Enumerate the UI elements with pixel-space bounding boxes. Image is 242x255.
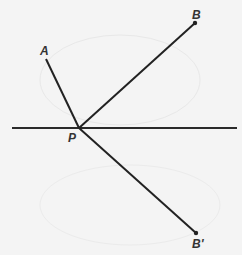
- segment-p-b-prime: [79, 128, 196, 233]
- faint-construction-arc-lower: [40, 165, 220, 245]
- label-a: A: [40, 44, 49, 58]
- label-b-prime: B': [192, 237, 204, 251]
- segment-p-b: [79, 23, 195, 128]
- diagram-canvas: A B P B': [0, 0, 242, 255]
- label-p: P: [68, 131, 76, 145]
- segment-a-p: [46, 59, 79, 128]
- point-b-prime-dot: [194, 231, 198, 235]
- label-b: B: [192, 8, 201, 22]
- faint-construction-arc: [40, 35, 200, 125]
- geometry-figure: [0, 0, 242, 255]
